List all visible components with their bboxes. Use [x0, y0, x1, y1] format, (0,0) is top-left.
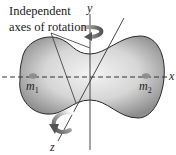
mass-2-label: m2 — [139, 80, 152, 95]
caption-line-1: Independent — [9, 5, 71, 18]
rigid-body-rotation-diagram: Independent axes of rotation y x z m1 m2 — [0, 0, 176, 155]
z-axis-label: z — [50, 141, 55, 153]
mass-1-dot — [29, 73, 37, 79]
y-axis-label: y — [87, 2, 92, 14]
rotation-arrow-z-icon — [49, 112, 72, 134]
mass-1-label: m1 — [26, 80, 39, 95]
caption-line-2: axes of rotation — [9, 21, 87, 34]
mass-2-dot — [142, 73, 150, 79]
x-axis-label: x — [169, 70, 174, 82]
